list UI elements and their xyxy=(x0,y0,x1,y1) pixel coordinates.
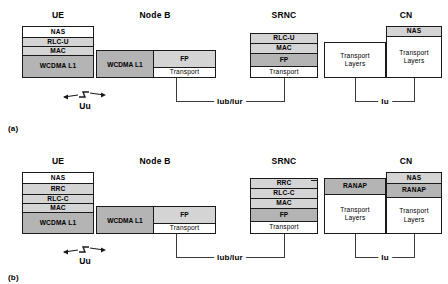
layer-transport: Transport xyxy=(154,224,215,233)
transport-layers-line1: Transport xyxy=(399,49,428,57)
node-title-cn-a: CN xyxy=(400,10,413,20)
interface-label-iub-iur-a: Iub/Iur xyxy=(214,97,246,106)
nodeb-transport-column-a: FP Transport xyxy=(154,51,215,77)
layer-nas: NAS xyxy=(23,27,93,38)
stack-srnc-left-b: RRC RLC-C MAC FP Transport xyxy=(250,178,318,234)
layer-rrc: RRC xyxy=(251,179,317,189)
transport-layers-line1: Transport xyxy=(399,207,428,215)
transport-layers-line2: Layers xyxy=(404,57,425,65)
connector-iub-vline-left xyxy=(176,234,177,258)
stack-cn-a: NAS Transport Layers xyxy=(386,26,442,78)
transport-layers-line1: Transport xyxy=(340,52,369,60)
layer-rlc-u: RLC-U xyxy=(251,34,317,44)
connector-iu-vline-right xyxy=(414,234,415,258)
layer-transport-layers: Transport Layers xyxy=(387,198,441,233)
node-title-nodeb-a: Node B xyxy=(140,10,171,20)
layer-fp: FP xyxy=(251,209,317,222)
layer-nas: NAS xyxy=(387,173,441,184)
stack-srnc-left-a: RLC-U MAC FP Transport xyxy=(250,33,318,78)
interface-label-iub-iur-b: Iub/Iur xyxy=(214,253,246,262)
layer-transport-layers: Transport Layers xyxy=(325,43,385,77)
box-nodeb-b: WCDMA L1 FP Transport xyxy=(96,206,216,234)
node-title-srnc-b: SRNC xyxy=(272,156,297,166)
panel-b: UE Node B SRNC CN NAS RRC RLC-C MAC WCDM… xyxy=(0,142,448,284)
transport-layers-line1: Transport xyxy=(340,206,369,214)
connector-iu-vline-left xyxy=(355,78,356,102)
layer-wcdma-l1: WCDMA L1 xyxy=(23,213,93,233)
connector-iu-vline-left xyxy=(355,234,356,258)
layer-ranap: RANAP xyxy=(325,179,385,195)
interface-label-iu-b: Iu xyxy=(378,253,392,262)
layer-transport: Transport xyxy=(251,222,317,233)
layer-fp: FP xyxy=(154,51,215,68)
stack-srnc-right-a: Transport Layers xyxy=(324,42,386,78)
panel-label-a: (a) xyxy=(8,124,18,133)
interface-label-uu-b: Uu xyxy=(79,256,91,266)
rrc-ranap-hook-left-icon xyxy=(311,180,318,185)
layer-rlc-u: RLC-U xyxy=(23,38,93,47)
layer-wcdma-l1: WCDMA L1 xyxy=(97,51,154,77)
connector-iub-vline-right xyxy=(284,234,285,258)
panel-label-b: (b) xyxy=(8,273,19,282)
layer-rrc: RRC xyxy=(23,184,93,195)
layer-transport: Transport xyxy=(154,68,215,77)
interface-label-iu-a: Iu xyxy=(378,97,392,106)
layer-ranap: RANAP xyxy=(387,184,441,198)
layer-fp: FP xyxy=(251,54,317,67)
panel-a: UE Node B SRNC CN NAS RLC-U MAC WCDMA L1… xyxy=(0,0,448,142)
node-title-cn-b: CN xyxy=(400,156,413,166)
node-title-nodeb-b: Node B xyxy=(140,156,171,166)
layer-mac: MAC xyxy=(23,47,93,56)
connector-iu-vline-right xyxy=(414,78,415,102)
nodeb-transport-column-b: FP Transport xyxy=(154,207,215,233)
layer-rlc-c: RLC-C xyxy=(23,195,93,204)
stack-ue-a: NAS RLC-U MAC WCDMA L1 xyxy=(22,26,94,78)
layer-fp: FP xyxy=(154,207,215,224)
transport-layers-line2: Layers xyxy=(404,216,425,224)
layer-transport-layers: Transport Layers xyxy=(387,37,441,77)
radio-arrow-icon xyxy=(62,243,108,257)
stack-srnc-right-b: RANAP Transport Layers xyxy=(324,178,386,234)
transport-layers-line2: Layers xyxy=(345,214,366,222)
transport-layers-line2: Layers xyxy=(345,60,366,68)
stack-ue-b: NAS RRC RLC-C MAC WCDMA L1 xyxy=(22,172,94,234)
connector-iub-vline-right xyxy=(284,78,285,102)
node-title-ue-b: UE xyxy=(52,156,64,166)
layer-nas: NAS xyxy=(387,27,441,37)
layer-mac: MAC xyxy=(251,199,317,209)
layer-mac: MAC xyxy=(251,44,317,54)
layer-nas: NAS xyxy=(23,173,93,184)
node-title-srnc-a: SRNC xyxy=(272,10,297,20)
connector-iub-vline-left xyxy=(176,78,177,102)
interface-label-uu-a: Uu xyxy=(79,101,91,111)
radio-arrow-icon xyxy=(62,88,108,102)
layer-rlc-c: RLC-C xyxy=(251,189,317,199)
layer-mac: MAC xyxy=(23,204,93,213)
stack-cn-b: NAS RANAP Transport Layers xyxy=(386,172,442,234)
layer-wcdma-l1: WCDMA L1 xyxy=(97,207,154,233)
box-nodeb-a: WCDMA L1 FP Transport xyxy=(96,50,216,78)
layer-wcdma-l1: WCDMA L1 xyxy=(23,56,93,77)
layer-transport-layers: Transport Layers xyxy=(325,195,385,233)
layer-transport: Transport xyxy=(251,67,317,77)
node-title-ue-a: UE xyxy=(52,10,64,20)
